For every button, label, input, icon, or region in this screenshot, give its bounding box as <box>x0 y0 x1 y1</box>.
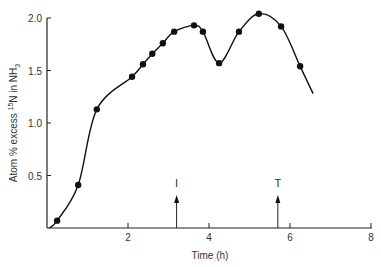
data-points <box>54 11 303 224</box>
data-point <box>54 217 60 223</box>
y-axis-label: Atom % excess 15N in NH3 <box>7 64 21 183</box>
x-tick-label: 6 <box>287 232 293 243</box>
data-point <box>171 28 177 34</box>
x-tick-label: 8 <box>368 232 374 243</box>
x-tick-label: 4 <box>206 232 212 243</box>
data-point <box>216 60 222 66</box>
arrow-head-icon <box>174 195 179 203</box>
data-curve <box>49 14 313 228</box>
data-point <box>297 63 303 69</box>
x-tick-label: 2 <box>125 232 131 243</box>
annotations: IT <box>174 177 281 228</box>
chart: 0.51.01.52.0 2468 Time (h) Atom % excess… <box>0 0 381 267</box>
y-tick-label: 1.0 <box>28 118 42 129</box>
data-point <box>200 28 206 34</box>
y-tick-label: 0.5 <box>28 171 42 182</box>
data-point <box>236 28 242 34</box>
axes <box>47 18 372 228</box>
y-tick-label: 2.0 <box>28 13 42 24</box>
data-point <box>160 40 166 46</box>
data-point <box>75 182 81 188</box>
x-ticks: 2468 <box>125 223 374 243</box>
data-point <box>256 11 262 17</box>
annotation-label: T <box>274 177 281 189</box>
data-point <box>149 51 155 57</box>
x-axis-label: Time (h) <box>192 250 229 261</box>
annotation-label: I <box>175 177 178 189</box>
data-point <box>129 74 135 80</box>
arrow-head-icon <box>275 195 280 203</box>
y-tick-label: 1.5 <box>28 66 42 77</box>
data-point <box>140 61 146 67</box>
data-point <box>191 22 197 28</box>
data-point <box>94 106 100 112</box>
data-point <box>278 23 284 29</box>
